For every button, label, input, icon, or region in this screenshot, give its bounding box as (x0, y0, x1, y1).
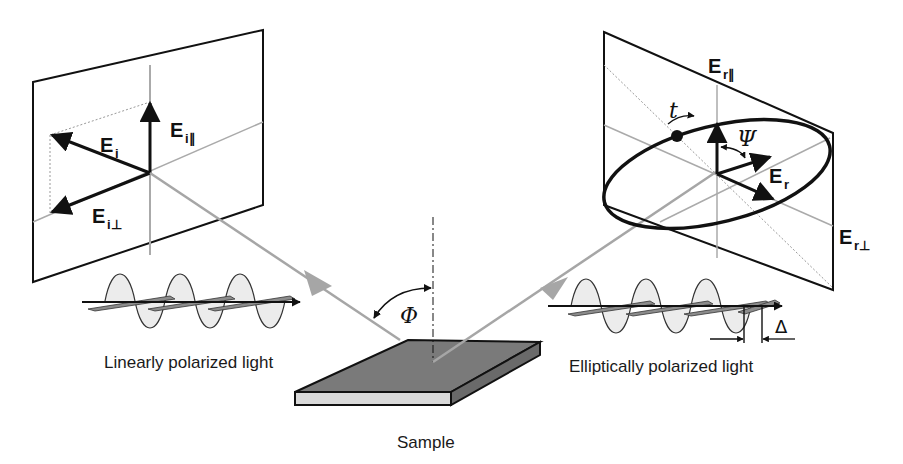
reflected-beam (433, 172, 716, 362)
t-label: t (669, 98, 678, 123)
phi-label: Φ (400, 303, 418, 328)
e-i-label: E (100, 134, 113, 156)
psi-label: Ψ (737, 126, 757, 151)
incident-plane: E i E i∥ E i⊥ (33, 30, 263, 282)
e-r-sub: r (784, 177, 789, 192)
reflected-plane: t Ψ E r E r∥ E r⊥ (593, 32, 870, 290)
e-r-perp-label: E (839, 226, 852, 248)
linear-wave (82, 274, 300, 328)
elliptical-wave: Δ (548, 279, 795, 343)
e-r-perp-vector (717, 174, 773, 199)
delta-label: Δ (775, 316, 788, 337)
sample (295, 340, 540, 405)
time-point (671, 130, 683, 142)
e-i-perp-sub: i⊥ (107, 217, 122, 232)
e-i-parallel-label: E (170, 119, 183, 141)
e-r-parallel-sub: r∥ (723, 67, 735, 83)
sample-caption: Sample (397, 433, 455, 452)
e-i-perp-label: E (92, 205, 105, 227)
e-i-parallel-sub: i∥ (185, 131, 196, 147)
linear-caption: Linearly polarized light (104, 353, 273, 372)
e-i-sub: i (115, 146, 119, 161)
e-r-parallel-label: E (708, 55, 721, 77)
elliptical-caption: Elliptically polarized light (569, 357, 754, 376)
ellipsometry-diagram: E i E i∥ E i⊥ Linearly polarized light S… (0, 0, 903, 464)
e-r-perp-sub: r⊥ (854, 238, 870, 253)
e-r-label: E (769, 165, 782, 187)
